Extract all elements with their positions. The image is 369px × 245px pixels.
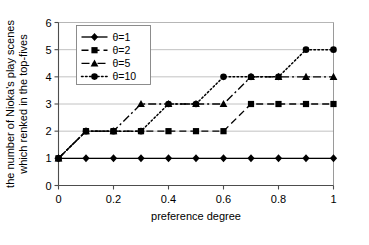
x-tick-label-0.4: 0.4 — [161, 193, 176, 205]
marker-θ-2-3 — [138, 128, 144, 134]
marker-θ-2-8 — [275, 101, 281, 107]
chart-canvas: 012345600.20.40.60.81preference degreeth… — [0, 0, 369, 245]
marker-θ-10-9 — [303, 46, 310, 53]
legend-label-θ-10: θ=10 — [113, 70, 137, 82]
marker-θ-2-9 — [303, 101, 309, 107]
marker-θ-10-10 — [330, 46, 337, 53]
y-tick-label-2: 2 — [45, 125, 51, 137]
legend: θ=1θ=2θ=5θ=10 — [77, 26, 151, 85]
y-tick-label-5: 5 — [45, 44, 51, 56]
marker-θ-2-6 — [220, 128, 226, 134]
y-tick-label-6: 6 — [45, 17, 51, 29]
marker-θ-2-7 — [248, 101, 254, 107]
legend-label-θ-5: θ=5 — [113, 57, 131, 69]
x-tick-label-0.2: 0.2 — [106, 193, 121, 205]
x-axis-title: preference degree — [151, 210, 241, 222]
marker-θ-2-2 — [110, 128, 116, 134]
marker-θ-2-4 — [165, 128, 171, 134]
y-tick-label-1: 1 — [45, 152, 51, 164]
y-tick-label-4: 4 — [45, 71, 51, 83]
marker-θ-2-1 — [83, 128, 89, 134]
y-tick-label-0: 0 — [45, 180, 51, 192]
legend-label-θ-1: θ=1 — [113, 31, 131, 43]
x-tick-label-0.8: 0.8 — [271, 193, 286, 205]
x-tick-label-0: 0 — [55, 193, 61, 205]
y-axis-ticks: 0123456 — [45, 17, 58, 192]
y-axis-title-line1: the number of Nioka's play scenes — [4, 20, 16, 188]
marker-θ-2-10 — [330, 101, 336, 107]
chart-figure: 012345600.20.40.60.81preference degreeth… — [0, 0, 369, 245]
y-axis-title-line2: which renked in the top-fives — [17, 34, 29, 175]
x-axis-ticks: 00.20.40.60.81 — [55, 186, 336, 205]
marker-legend-θ-2-0 — [91, 47, 97, 53]
y-tick-label-3: 3 — [45, 98, 51, 110]
marker-legend-θ-10-0 — [91, 73, 98, 80]
marker-θ-10-6 — [220, 74, 227, 81]
x-tick-label-1: 1 — [330, 193, 336, 205]
legend-label-θ-2: θ=2 — [113, 44, 131, 56]
marker-θ-2-5 — [193, 128, 199, 134]
x-tick-label-0.6: 0.6 — [216, 193, 231, 205]
